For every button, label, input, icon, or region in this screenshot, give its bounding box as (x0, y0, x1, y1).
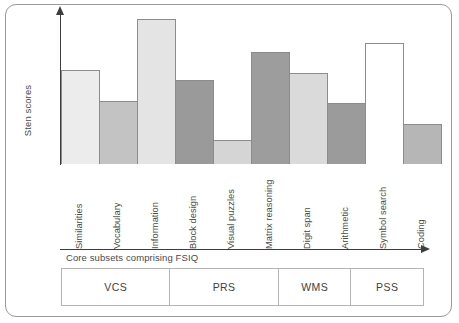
group-cell: PRS (170, 269, 278, 305)
x-axis-title: Core subsets comprising FSIQ (66, 252, 198, 263)
x-tick-label: Block design (188, 196, 198, 249)
index-group-table: VCSPRSWMSPSS (61, 268, 424, 306)
bar (137, 19, 176, 165)
x-tick-label: Arithmetic (340, 207, 350, 249)
x-axis-line (60, 249, 423, 250)
x-tick: Coding (403, 165, 441, 249)
group-cell: PSS (351, 269, 423, 305)
x-axis-tick-labels: SimilaritiesVocabularyInformationBlock d… (61, 165, 441, 249)
bar (289, 73, 328, 165)
x-tick: Block design (175, 165, 213, 249)
x-tick: Symbol search (365, 165, 403, 249)
figure-root: Sten scores SimilaritiesVocabularyInform… (0, 0, 459, 323)
bar (213, 140, 252, 164)
x-tick-label: Digit span (302, 207, 312, 249)
bar (365, 43, 404, 165)
bar-series (61, 14, 441, 164)
bar (327, 103, 366, 165)
x-tick-label: Similarities (74, 203, 84, 249)
group-cell: VCS (62, 269, 170, 305)
plot-area (61, 14, 441, 164)
x-tick: Similarities (61, 165, 99, 249)
x-tick-label: Coding (416, 219, 426, 249)
bar (61, 70, 100, 165)
x-tick: Matrix reasoning (251, 165, 289, 249)
group-cell: WMS (279, 269, 352, 305)
bar (251, 52, 290, 165)
x-tick-label: Matrix reasoning (264, 179, 274, 249)
x-tick-label: Information (150, 202, 160, 249)
x-tick: Digit span (289, 165, 327, 249)
x-tick-label: Symbol search (378, 187, 388, 249)
x-tick: Visual puzzles (213, 165, 251, 249)
x-tick-label: Vocabulary (112, 203, 122, 250)
bar (99, 101, 138, 164)
y-axis-title: Sten scores (22, 56, 33, 166)
x-tick: Information (137, 165, 175, 249)
bar (175, 80, 214, 164)
x-tick: Arithmetic (327, 165, 365, 249)
bar (403, 124, 442, 165)
x-tick-label: Visual puzzles (226, 189, 236, 249)
x-tick: Vocabulary (99, 165, 137, 249)
